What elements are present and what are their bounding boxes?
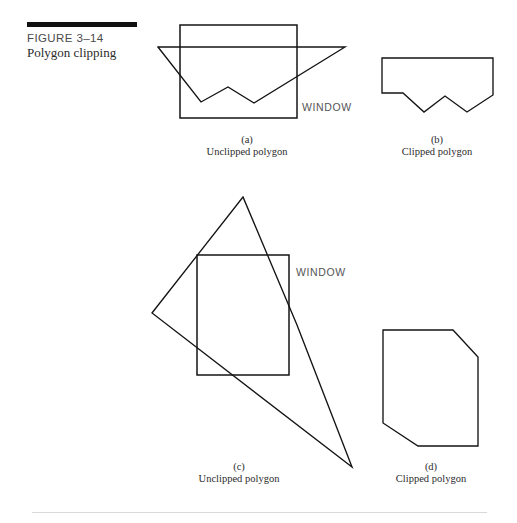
panel-b-letter: (b)	[431, 134, 444, 146]
figure-page: FIGURE 3–14 Polygon clipping WINDOW (a) …	[0, 0, 517, 523]
panel-d-letter: (d)	[425, 461, 438, 473]
figure-canvas: WINDOW (a) Unclipped polygon (b) Clipped…	[0, 0, 517, 523]
panel-b-caption: Clipped polygon	[402, 146, 473, 157]
panel-c-unclipped-polygon	[152, 197, 352, 467]
panel-a-window-rect	[180, 25, 297, 118]
panel-a-unclipped-polygon	[158, 47, 345, 103]
panel-a-caption: Unclipped polygon	[207, 146, 289, 157]
panel-c-window-label: WINDOW	[296, 266, 346, 278]
panel-a-group: WINDOW (a) Unclipped polygon	[158, 25, 352, 157]
panel-b-clipped-polygon	[382, 58, 493, 112]
page-bottom-rule	[32, 512, 487, 513]
panel-a-window-label: WINDOW	[302, 101, 352, 113]
panel-d-caption: Clipped polygon	[396, 473, 467, 484]
panel-d-group: (d) Clipped polygon	[383, 330, 478, 484]
panel-c-caption: Unclipped polygon	[199, 473, 281, 484]
panel-b-group: (b) Clipped polygon	[382, 58, 493, 157]
panel-a-letter: (a)	[241, 134, 253, 146]
panel-c-group: WINDOW (c) Unclipped polygon	[152, 197, 352, 484]
panel-c-letter: (c)	[233, 461, 245, 473]
panel-d-clipped-polygon	[383, 330, 478, 446]
